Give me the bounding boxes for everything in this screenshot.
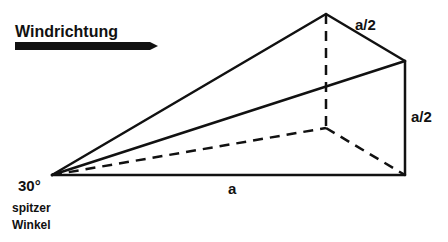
angle-caption-line1: spitzer [12, 201, 51, 215]
edge-apex-top-front [52, 61, 405, 175]
wind-direction-label: Windrichtung [15, 23, 118, 40]
angle-label: 30° [18, 177, 41, 194]
bottom-edge-label: a [228, 180, 237, 197]
wind-direction-arrow-icon [15, 42, 158, 50]
edge-bottom-back [326, 128, 405, 175]
right-edge-label: a/2 [411, 108, 432, 125]
top-edge-label: a/2 [355, 16, 376, 33]
wedge-diagram: Windrichtung a/2 a/2 a 30° spitzer Winke… [0, 0, 448, 242]
angle-caption-line2: Winkel [12, 218, 51, 232]
